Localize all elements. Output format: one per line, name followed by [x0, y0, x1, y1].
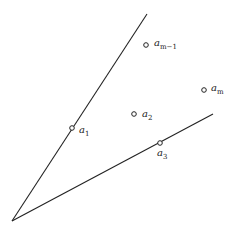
- point-a2-marker: [132, 112, 137, 117]
- point-am-label: am: [211, 82, 224, 96]
- point-a1-label: a1: [79, 124, 89, 138]
- point-a3-label: a3: [157, 147, 167, 161]
- point-a3-marker: [158, 141, 163, 146]
- point-am-1-label: am−1: [154, 37, 177, 51]
- point-am-1-marker: [144, 43, 149, 48]
- point-a1-marker: [70, 126, 75, 131]
- point-am-marker: [202, 88, 207, 93]
- upper-ray: [12, 14, 147, 221]
- lower-ray: [12, 114, 213, 221]
- cone-diagram: a1a2a3am−1am: [0, 0, 232, 231]
- diagram-svg: a1a2a3am−1am: [0, 0, 232, 231]
- point-a2-label: a2: [142, 108, 152, 122]
